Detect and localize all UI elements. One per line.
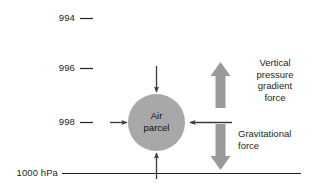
- pressure-force-diagram: 994 996 998 1000 hPa Air parcel Vertical…: [0, 0, 314, 192]
- pressure-level-label-1000: 1000 hPa: [0, 168, 58, 178]
- pressure-level-label-998: 998: [0, 117, 75, 127]
- vertical-pressure-gradient-force-label: Vertical pressure gradient force: [238, 57, 312, 103]
- pressure-level-label-994: 994: [0, 13, 75, 23]
- air-parcel-label: Air parcel: [128, 110, 185, 133]
- vertical-pressure-gradient-force-arrow: [211, 62, 231, 108]
- gravitational-force-label: Gravitational force: [238, 128, 312, 151]
- pressure-level-label-996: 996: [0, 63, 75, 73]
- gravitational-force-arrow: [211, 124, 231, 170]
